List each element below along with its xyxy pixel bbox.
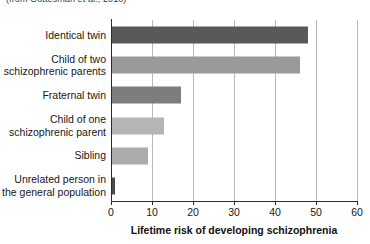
x-axis-tick (234, 201, 235, 205)
category-label-wrapper: Fraternal twin (0, 80, 106, 110)
bar-row (111, 80, 357, 110)
bar-row (111, 111, 357, 141)
bar-row (111, 141, 357, 171)
category-label: Sibling (0, 149, 106, 162)
x-axis-tick (193, 201, 194, 205)
x-axis-tick-label: 60 (351, 206, 363, 218)
x-axis-tick (152, 201, 153, 205)
x-axis-title: Lifetime risk of developing schizophreni… (111, 224, 357, 236)
x-axis-tick (111, 201, 112, 205)
category-label-wrapper: Child of two schizophrenic parents (0, 50, 106, 80)
category-label-wrapper: Identical twin (0, 20, 106, 50)
bar (111, 87, 181, 104)
category-label: Unrelated person in the general populati… (0, 173, 106, 198)
x-axis-tick-label: 30 (228, 206, 240, 218)
plot-area (111, 20, 357, 201)
bar-row (111, 50, 357, 80)
x-axis-tick (316, 201, 317, 205)
x-axis-tick-label: 10 (146, 206, 158, 218)
bar (111, 147, 148, 164)
bar (111, 57, 300, 74)
category-label: Child of two schizophrenic parents (0, 53, 106, 78)
x-axis-tick-label: 40 (269, 206, 281, 218)
x-axis-tick-label: 50 (310, 206, 322, 218)
category-axis-labels: Identical twinChild of two schizophrenic… (0, 20, 106, 201)
bar (111, 27, 308, 44)
bar-row (111, 20, 357, 50)
gridline (357, 20, 358, 201)
category-label-wrapper: Child of one schizophrenic parent (0, 111, 106, 141)
bar-chart: Identical twinChild of two schizophrenic… (0, 0, 370, 244)
category-label-wrapper: Sibling (0, 141, 106, 171)
bar-row (111, 171, 357, 201)
x-axis-tick (275, 201, 276, 205)
y-axis-line (111, 19, 112, 202)
category-label: Child of one schizophrenic parent (0, 113, 106, 138)
x-axis-tick (357, 201, 358, 205)
category-label-wrapper: Unrelated person in the general populati… (0, 171, 106, 201)
x-axis-tick-label: 20 (187, 206, 199, 218)
bar (111, 117, 164, 134)
category-label: Fraternal twin (0, 89, 106, 102)
x-axis-tick-label: 0 (108, 206, 114, 218)
category-label: Identical twin (0, 29, 106, 42)
